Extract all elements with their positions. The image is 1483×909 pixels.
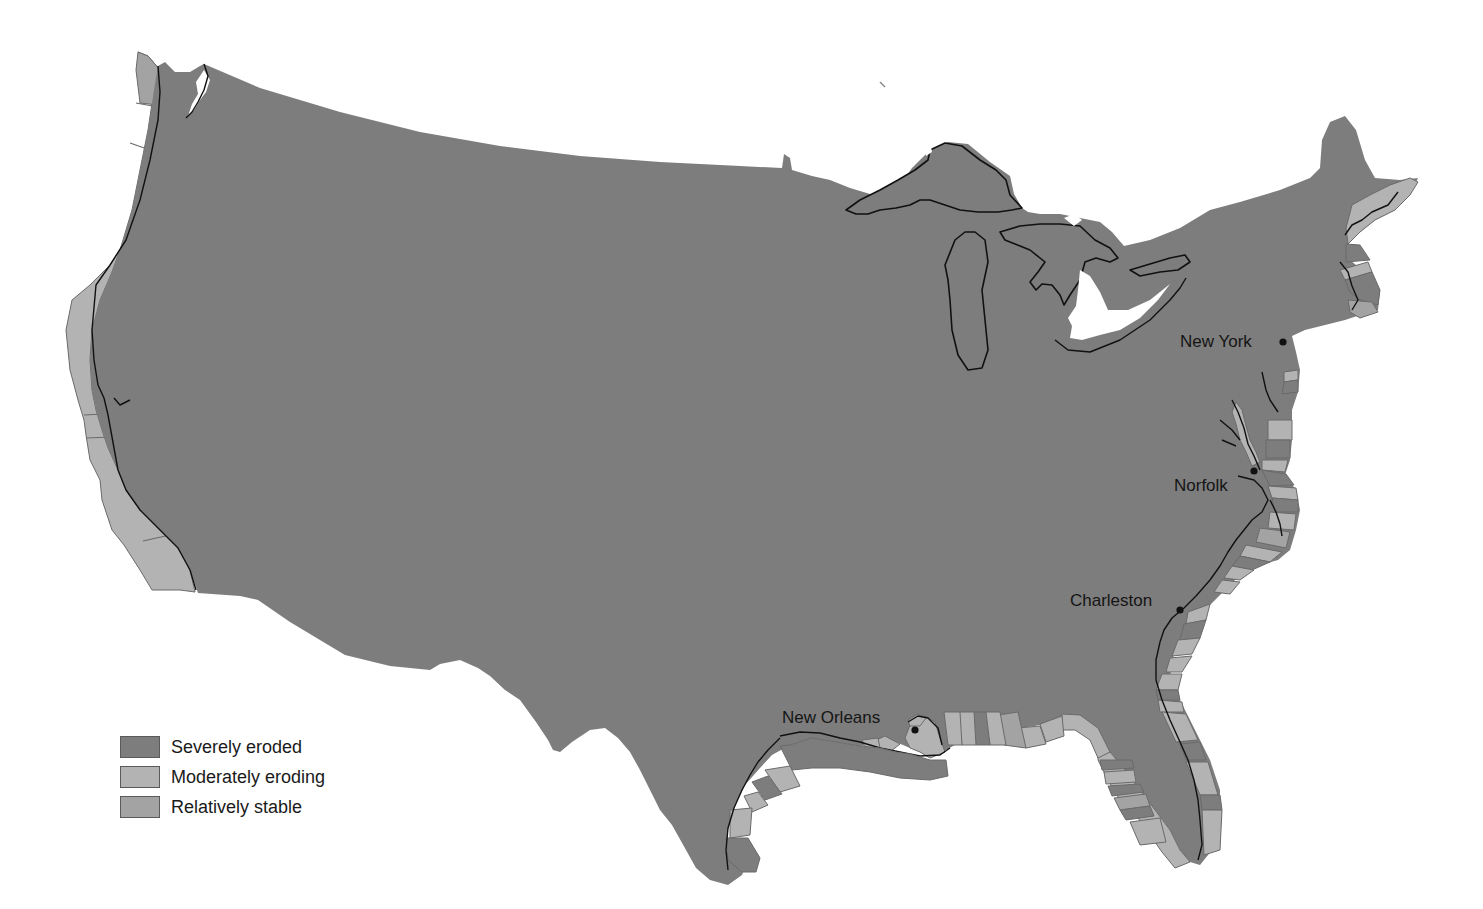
stray-mark bbox=[880, 82, 885, 87]
legend-swatch-severely-eroded bbox=[120, 736, 160, 758]
city-label-charleston: Charleston bbox=[1070, 592, 1152, 609]
norfolk-dot bbox=[1250, 467, 1257, 474]
legend-item-relatively-stable: Relatively stable bbox=[120, 792, 325, 822]
legend-item-moderately-eroding: Moderately eroding bbox=[120, 762, 325, 792]
charleston-dot bbox=[1176, 606, 1183, 613]
city-label-new-orleans: New Orleans bbox=[782, 709, 880, 726]
city-label-norfolk: Norfolk bbox=[1174, 477, 1228, 494]
legend-swatch-relatively-stable bbox=[120, 796, 160, 818]
legend-label: Relatively stable bbox=[171, 798, 302, 816]
new-york-dot bbox=[1279, 338, 1286, 345]
city-label-new-york: New York bbox=[1180, 333, 1252, 350]
map-legend: Severely eroded Moderately eroding Relat… bbox=[120, 732, 325, 822]
legend-swatch-moderately-eroding bbox=[120, 766, 160, 788]
legend-label: Moderately eroding bbox=[171, 768, 325, 786]
new-orleans-dot bbox=[911, 726, 918, 733]
legend-label: Severely eroded bbox=[171, 738, 302, 756]
legend-item-severely-eroded: Severely eroded bbox=[120, 732, 325, 762]
